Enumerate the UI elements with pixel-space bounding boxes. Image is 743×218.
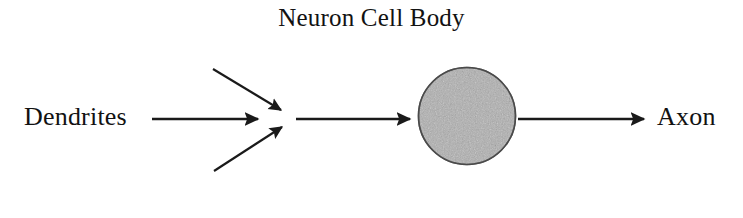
axon-label: Axon (657, 104, 716, 130)
neuron-diagram: Neuron Cell Body Dendri (0, 0, 743, 218)
dendrites-label: Dendrites (24, 104, 127, 130)
dendrite-upper-branch-arrow (213, 69, 281, 110)
dendrite-lower-branch-arrow (214, 127, 282, 171)
